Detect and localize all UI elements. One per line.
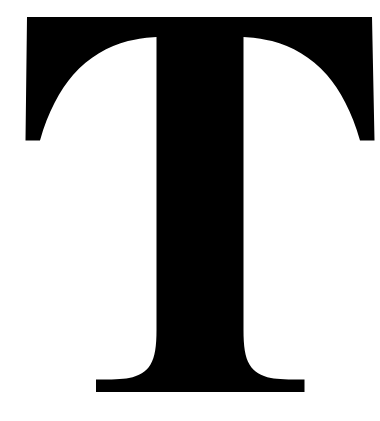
glyph-canvas: T xyxy=(0,0,380,421)
letter-t-glyph-image xyxy=(0,0,380,421)
